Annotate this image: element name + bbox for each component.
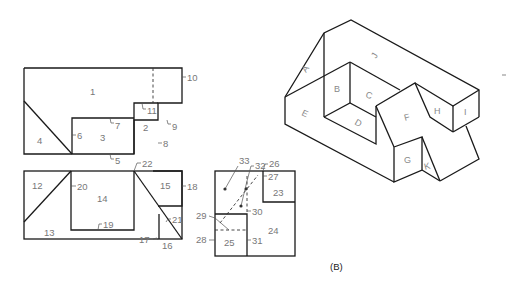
region-1: 1 — [90, 86, 95, 97]
region-4: 4 — [37, 135, 42, 146]
face-C: C — [364, 89, 374, 101]
face-J: J — [369, 51, 380, 60]
face-I: I — [464, 107, 467, 117]
region-3: 3 — [100, 132, 105, 143]
callout-32: 32 — [255, 160, 266, 171]
region-2: 2 — [143, 122, 148, 133]
callout-33: 33 — [239, 155, 250, 166]
callout-8: 8 — [163, 138, 168, 149]
callout-19: 19 — [103, 219, 114, 230]
face-H: H — [434, 106, 441, 116]
callout-17: 17 — [139, 234, 150, 245]
callout-10: 10 — [187, 72, 198, 83]
callout-22: 22 — [142, 158, 153, 169]
callout-20: 20 — [77, 181, 88, 192]
callout-9: 9 — [172, 121, 177, 132]
side-view: 23 24 25 26 27 28 29 30 31 32 33 — [196, 155, 295, 256]
face-E: E — [300, 108, 310, 120]
region-15: 15 — [160, 180, 171, 191]
face-D: D — [353, 117, 364, 129]
callout-7: 7 — [115, 120, 120, 131]
region-23: 23 — [273, 187, 284, 198]
face-A: A — [299, 63, 311, 74]
region-12: 12 — [32, 180, 43, 191]
face-K: K — [423, 161, 431, 172]
callout-11: 11 — [147, 105, 157, 116]
figure-caption: (B) — [330, 261, 343, 272]
face-B: B — [334, 84, 340, 94]
callout-30: 30 — [252, 206, 263, 217]
callout-18: 18 — [187, 181, 198, 192]
face-F: F — [403, 112, 411, 123]
face-G: G — [404, 155, 411, 165]
region-13: 13 — [44, 227, 55, 238]
callout-27: 27 — [268, 171, 279, 182]
callout-5: 5 — [115, 155, 120, 166]
region-16: 16 — [162, 240, 173, 251]
region-14: 14 — [97, 193, 108, 204]
isometric-view: A B C D E F G H I J K — [285, 20, 479, 182]
front-view: 12 13 14 15 16 17 18 19 20 21 22 — [24, 158, 198, 251]
callout-31: 31 — [252, 235, 263, 246]
orthographic-isometric-figure: 1 2 3 4 5 6 7 8 9 10 11 12 13 14 15 16 1… — [0, 0, 506, 285]
top-view: 1 2 3 4 5 6 7 8 9 10 11 — [24, 68, 198, 166]
region-24: 24 — [268, 225, 279, 236]
callout-6: 6 — [77, 130, 82, 141]
callout-26: 26 — [269, 158, 280, 169]
callout-28: 28 — [196, 234, 207, 245]
callout-29: 29 — [196, 210, 207, 221]
callout-21: 21 — [172, 214, 183, 225]
region-25: 25 — [224, 237, 235, 248]
